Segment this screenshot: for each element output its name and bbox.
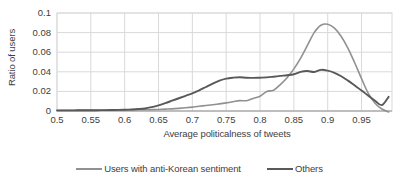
legend-item[interactable]: Users with anti-Korean sentiment: [76, 163, 241, 174]
plot-border: [57, 13, 392, 111]
gridlines: [57, 13, 392, 111]
legend-label: Others: [295, 163, 323, 174]
series-lines: [57, 24, 389, 112]
legend-line-icon: [76, 168, 102, 170]
series-line-0: [57, 24, 389, 112]
legend-item[interactable]: Others: [267, 163, 323, 174]
plot-frame: [57, 13, 392, 111]
legend: Users with anti-Korean sentimentOthers: [0, 163, 399, 174]
legend-label: Users with anti-Korean sentiment: [104, 163, 241, 174]
plot-area: [0, 0, 399, 190]
legend-line-icon: [267, 168, 293, 170]
series-line-1: [57, 70, 389, 111]
chart-container: Ratio of users Average politicalness of …: [0, 0, 399, 190]
